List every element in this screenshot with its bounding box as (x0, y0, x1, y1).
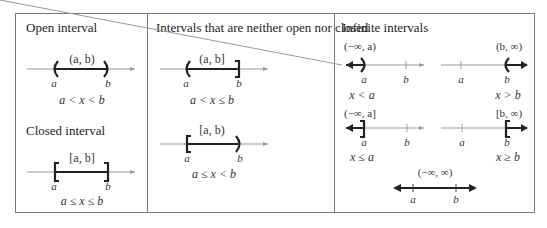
number-line-neg-inf-to-a-open: (−∞, a) a b x < a (0, 0, 424, 102)
number-line-diagrams: (a, b) a b a < x < b [a, b] a b a ≤ x ≤ … (0, 0, 547, 228)
svg-text:a: a (410, 193, 416, 205)
svg-text:b: b (453, 193, 459, 205)
svg-text:x ≤ a: x ≤ a (349, 150, 374, 164)
svg-text:a: a (361, 136, 367, 148)
svg-text:x < a: x < a (348, 88, 374, 102)
svg-text:a: a (183, 77, 189, 89)
svg-text:(−∞, ∞): (−∞, ∞) (418, 166, 453, 179)
svg-text:x ≥ b: x ≥ b (495, 150, 520, 164)
number-line-closed-interval: [a, b] a b a ≤ x ≤ b (27, 151, 135, 208)
svg-text:(−∞, a]: (−∞, a] (344, 107, 376, 120)
number-line-left-closed-right-open: [a, b) a b a ≤ x < b (160, 123, 268, 181)
svg-text:b: b (105, 180, 111, 192)
svg-text:(a, b]: (a, b] (199, 52, 224, 66)
svg-text:a < x ≤ b: a < x ≤ b (190, 93, 234, 107)
number-line-b-to-inf-open: (b, ∞) a b x > b (441, 40, 528, 102)
svg-text:a: a (458, 73, 464, 85)
number-line-left-open-right-closed: (a, b] a b a < x ≤ b (160, 52, 268, 107)
svg-text:(−∞, a): (−∞, a) (344, 40, 376, 53)
svg-text:[b, ∞): [b, ∞) (496, 107, 523, 120)
svg-text:b: b (237, 152, 243, 164)
svg-text:b: b (404, 136, 410, 148)
number-line-neg-inf-to-a-closed: (−∞, a] a b x ≤ a (344, 107, 424, 164)
number-line-b-to-inf-closed: [b, ∞) a b x ≥ b (441, 107, 528, 164)
svg-text:b: b (504, 73, 510, 85)
svg-text:a ≤ x ≤ b: a ≤ x ≤ b (61, 194, 104, 208)
svg-text:a ≤ x < b: a ≤ x < b (192, 167, 236, 181)
svg-text:a: a (361, 73, 367, 85)
svg-text:[a, b): [a, b) (199, 123, 224, 137)
svg-text:a: a (51, 180, 57, 192)
number-line-all-reals: (−∞, ∞) a b (393, 166, 477, 205)
svg-text:a: a (51, 77, 57, 89)
svg-text:b: b (403, 73, 409, 85)
svg-text:b: b (504, 136, 510, 148)
number-line-open-interval: (a, b) a b a < x < b (27, 52, 135, 107)
svg-text:b: b (105, 77, 111, 89)
inequality-label: a < x < b (59, 93, 105, 107)
svg-text:x > b: x > b (494, 88, 520, 102)
svg-text:a: a (184, 152, 190, 164)
notation-label: (a, b) (69, 52, 94, 66)
svg-text:(b, ∞): (b, ∞) (496, 40, 523, 53)
svg-text:a: a (459, 136, 465, 148)
svg-text:b: b (236, 77, 242, 89)
svg-text:[a, b]: [a, b] (69, 151, 94, 165)
